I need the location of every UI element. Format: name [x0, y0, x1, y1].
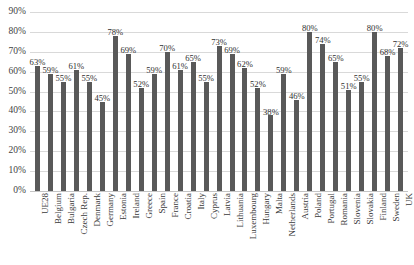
bar-slot: 63%: [31, 12, 44, 191]
x-label-slot: Poland: [303, 193, 316, 263]
x-label-slot: Sweden: [381, 193, 394, 263]
y-axis-tick-label: 80%: [9, 27, 26, 37]
x-axis-category-label: UK: [405, 180, 414, 193]
y-axis-tick-label: 20%: [9, 146, 26, 156]
x-axis-category-label: Austria: [301, 167, 310, 194]
x-label-slot: Belgium: [44, 193, 57, 263]
bar-slot: 70%: [161, 12, 174, 191]
x-label-slot: Luxembourg: [239, 193, 252, 263]
x-label-slot: Cyprus: [200, 193, 213, 263]
bar-slot: 52%: [135, 12, 148, 191]
bar-slot: 59%: [148, 12, 161, 191]
y-axis-tick-label: 90%: [9, 7, 26, 17]
x-axis-category-label: France: [171, 169, 180, 194]
bar[interactable]: 55%: [204, 82, 209, 191]
x-axis-labels: UE28BelgiumBulgariaCzech Rep.DenmarkGerm…: [30, 193, 408, 263]
x-axis-category-label: Luxembourg: [249, 147, 258, 193]
x-label-slot: Estonia: [109, 193, 122, 263]
x-label-slot: Lithuania: [226, 193, 239, 263]
x-label-slot: Romania: [329, 193, 342, 263]
x-axis-category-label: Spain: [158, 172, 167, 193]
x-axis-category-label: Netherlands: [288, 150, 297, 193]
y-axis: 0%10%20%30%40%50%60%70%80%90%: [0, 12, 28, 191]
y-axis-tick-label: 30%: [9, 127, 26, 137]
x-axis-category-label: Latvia: [223, 170, 232, 193]
x-axis-category-label: Sweden: [392, 165, 401, 194]
bar-slot: 61%: [174, 12, 187, 191]
x-axis-category-label: Denmark: [93, 160, 102, 194]
bar[interactable]: 63%: [35, 66, 40, 191]
x-axis-category-label: Belgium: [54, 162, 63, 193]
y-axis-tick-label: 0%: [13, 186, 26, 196]
x-axis-category-label: Greece: [145, 168, 154, 193]
x-axis-category-label: Bulgaria: [67, 162, 76, 193]
x-axis-category-label: Lithuania: [236, 159, 245, 194]
x-label-slot: Bulgaria: [57, 193, 70, 263]
y-axis-tick-label: 60%: [9, 67, 26, 77]
x-label-slot: France: [161, 193, 174, 263]
x-axis-category-label: Poland: [314, 168, 323, 193]
x-axis-category-label: Croatia: [184, 167, 193, 194]
x-label-slot: Netherlands: [277, 193, 290, 263]
x-label-slot: Slovenia: [342, 193, 355, 263]
x-label-slot: Italy: [187, 193, 200, 263]
y-axis-tick-label: 70%: [9, 47, 26, 57]
x-label-slot: Malta: [264, 193, 277, 263]
x-axis-category-label: UE28: [41, 172, 50, 193]
x-label-slot: Greece: [135, 193, 148, 263]
x-axis-category-label: Hungary: [262, 162, 271, 194]
x-label-slot: Latvia: [213, 193, 226, 263]
x-axis-category-label: Slovenia: [353, 162, 362, 194]
x-label-slot: Denmark: [83, 193, 96, 263]
x-label-slot: Austria: [290, 193, 303, 263]
x-axis-category-label: Cyprus: [210, 167, 219, 193]
x-axis-category-label: Germany: [106, 160, 115, 194]
x-label-slot: Slovakia: [355, 193, 368, 263]
bar-slot: 73%: [213, 12, 226, 191]
x-label-slot: UE28: [31, 193, 44, 263]
bar-value-label: 72%: [393, 40, 409, 49]
x-label-slot: Czech Rep.: [70, 193, 83, 263]
x-label-slot: Hungary: [251, 193, 264, 263]
bar-slot: 69%: [122, 12, 135, 191]
x-axis-category-label: Estonia: [119, 166, 128, 193]
x-axis-category-label: Slovakia: [366, 162, 375, 194]
x-label-slot: Spain: [148, 193, 161, 263]
x-label-slot: Germany: [96, 193, 109, 263]
x-label-slot: Finland: [368, 193, 381, 263]
y-axis-tick-label: 40%: [9, 107, 26, 117]
x-axis-category-label: Czech Rep.: [80, 152, 89, 193]
x-axis-category-label: Malta: [275, 172, 284, 193]
x-axis-category-label: Italy: [197, 177, 206, 194]
x-axis-category-label: Finland: [379, 165, 388, 193]
x-axis-category-label: Ireland: [132, 168, 141, 193]
x-label-slot: UK: [394, 193, 407, 263]
x-axis-category-label: Romania: [340, 161, 349, 194]
x-axis-category-label: Portugal: [327, 163, 336, 194]
y-axis-tick-label: 10%: [9, 166, 26, 176]
bar[interactable]: 70%: [165, 52, 170, 191]
x-label-slot: Ireland: [122, 193, 135, 263]
y-axis-tick-label: 50%: [9, 87, 26, 97]
bar-slot: 65%: [187, 12, 200, 191]
x-label-slot: Croatia: [174, 193, 187, 263]
x-label-slot: Portugal: [316, 193, 329, 263]
